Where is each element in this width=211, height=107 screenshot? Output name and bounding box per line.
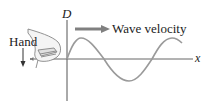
d-axis-label: D	[62, 6, 71, 22]
hand-motion-arrow-icon	[21, 48, 26, 67]
wave-velocity-arrow-icon	[75, 25, 110, 33]
wave-velocity-label: Wave velocity	[112, 21, 186, 37]
x-axis-label: x	[195, 51, 200, 66]
hand-label: Hand	[9, 34, 37, 50]
wave-diagram	[0, 0, 211, 107]
